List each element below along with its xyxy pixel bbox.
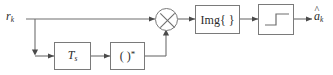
conjugate-base: ( ): [120, 49, 131, 63]
imaginary-part-block: Img{ }: [195, 5, 240, 34]
output-subscript: k: [320, 15, 323, 24]
delay-block-label: Ts: [68, 49, 78, 63]
output-decision-label: ^ak: [314, 10, 323, 24]
conjugate-block: ( )*: [110, 42, 145, 70]
input-subscript: k: [11, 15, 14, 24]
hat-accent: ^: [315, 5, 320, 15]
conjugate-superscript: *: [131, 49, 136, 59]
delay-subscript: s: [74, 54, 77, 63]
delay-block: Ts: [54, 42, 91, 70]
multiplier-node: [155, 8, 178, 31]
input-signal-label: rk: [6, 10, 14, 24]
conjugate-block-label: ( )*: [120, 50, 136, 62]
cross-circle-icon: [156, 9, 179, 32]
output-base-wrap: ^a: [314, 10, 320, 22]
imaginary-part-block-label: Img{ }: [201, 14, 235, 26]
slicer-block: [258, 4, 294, 35]
block-diagram-canvas: rk Img{ } ^ak Ts ( )*: [0, 0, 333, 75]
arrowhead-branch-drop: [32, 50, 38, 56]
step-function-icon: [259, 5, 295, 36]
